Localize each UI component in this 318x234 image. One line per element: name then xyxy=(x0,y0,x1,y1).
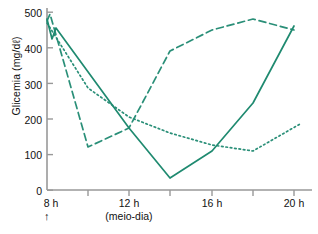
x-axis-ticks xyxy=(88,190,294,196)
series-dashed-curve xyxy=(47,14,294,147)
x-tick-label-20h: 20 h xyxy=(279,197,309,209)
chart-figure: Glicemia (mg/dℓ) 0 100 200 300 400 500 xyxy=(0,0,318,234)
x-tick-label-12h: 12 h xyxy=(114,197,144,209)
x-tick-label-16h: 16 h xyxy=(197,197,227,209)
x-tick-sublabel-meio-dia: (meio-dia) xyxy=(96,210,162,222)
series-solid-curve xyxy=(47,19,294,178)
x-tick-label-8h: 8 h xyxy=(36,197,66,209)
start-time-arrow-icon: ↑ xyxy=(44,211,50,222)
axis-lines xyxy=(47,8,312,190)
